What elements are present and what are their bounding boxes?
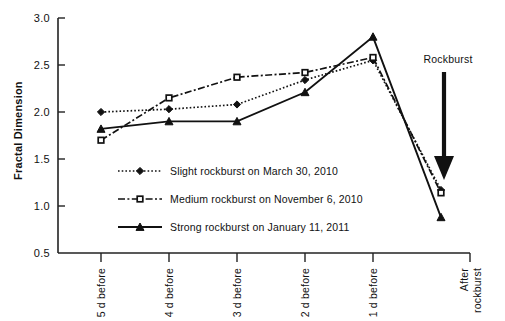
legend-label: Slight rockburst on March 30, 2010 — [170, 165, 338, 177]
legend-item-3[interactable]: Strong rockburst on January 11, 2011 — [118, 221, 350, 233]
y-tick-label-3: 1.5 — [34, 153, 50, 165]
legend-label: Strong rockburst on January 11, 2011 — [170, 221, 350, 233]
fractal-dimension-chart: Fractal Dimension 3.0 2.5 2.0 1.5 — [0, 0, 505, 321]
legend-item-1[interactable]: Slight rockburst on March 30, 2010 — [118, 165, 338, 177]
data-point-marker — [301, 76, 308, 83]
chart-legend: Slight rockburst on March 30, 2010Medium… — [118, 165, 363, 233]
y-tick-label-5: 0.5 — [34, 247, 50, 259]
data-point-marker — [165, 106, 172, 113]
rockburst-annotation: Rockburst — [423, 53, 472, 65]
data-point-marker — [302, 70, 308, 76]
data-point-marker — [137, 196, 143, 202]
y-tick-labels: 3.0 2.5 2.0 1.5 1.0 0.5 — [34, 12, 50, 259]
data-point-marker — [234, 74, 240, 80]
x-tick-label-4: 1 d before — [367, 268, 379, 317]
series-line — [101, 37, 441, 218]
y-tick-label-4: 1.0 — [34, 200, 50, 212]
legend-item-2[interactable]: Medium rockburst on November 6, 2010 — [118, 193, 363, 205]
y-tick-label-1: 2.5 — [34, 59, 50, 71]
x-tick-label-1: 4 d before — [163, 268, 175, 317]
y-axis-title: Fractal Dimension — [12, 81, 24, 180]
x-tick-label-0: 5 d before — [95, 268, 107, 317]
rockburst-annotation-label: Rockburst — [423, 53, 472, 65]
data-point-marker — [166, 95, 172, 101]
x-tick-label-5-line1: After — [458, 268, 470, 291]
data-point-marker — [438, 190, 444, 196]
y-tick-label-0: 3.0 — [34, 12, 50, 24]
data-point-marker — [370, 55, 376, 61]
data-point-marker — [233, 101, 240, 108]
x-tick-labels: 5 d before 4 d before 3 d before 2 d bef… — [95, 268, 483, 318]
x-tick-label-3: 2 d before — [299, 268, 311, 317]
down-arrow-icon — [434, 72, 454, 180]
data-point-marker — [369, 33, 377, 40]
data-point-marker — [136, 167, 143, 174]
x-tick-label-2: 3 d before — [231, 268, 243, 317]
data-point-marker — [97, 108, 104, 115]
y-axis-title-group: Fractal Dimension — [12, 81, 24, 180]
data-point-marker — [98, 137, 104, 143]
y-tick-label-2: 2.0 — [34, 106, 50, 118]
chart-canvas: Fractal Dimension 3.0 2.5 2.0 1.5 — [0, 0, 505, 321]
arrow-head — [434, 156, 454, 180]
x-tick-label-5-line2: rockburst — [471, 268, 483, 313]
data-point-marker — [437, 213, 445, 220]
legend-label: Medium rockburst on November 6, 2010 — [170, 193, 363, 205]
